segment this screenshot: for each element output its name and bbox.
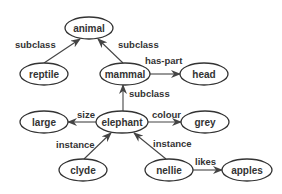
edge-label-colour: colour bbox=[152, 109, 181, 120]
node-head-label: head bbox=[192, 69, 215, 80]
node-head: head bbox=[180, 63, 228, 85]
edge-label-instance: instance bbox=[56, 139, 95, 150]
node-animal: animal bbox=[65, 17, 113, 39]
edge-label-subclass: subclass bbox=[15, 39, 56, 50]
node-mammal: mammal bbox=[100, 63, 150, 85]
edge-label-likes: likes bbox=[195, 156, 216, 167]
node-large-label: large bbox=[32, 117, 56, 128]
node-nellie: nellie bbox=[145, 159, 193, 181]
node-grey-label: grey bbox=[194, 117, 216, 128]
edge-label-instance: instance bbox=[153, 138, 192, 149]
edge-label-subclass: subclass bbox=[118, 39, 159, 50]
node-mammal-label: mammal bbox=[105, 69, 146, 80]
node-apples-label: apples bbox=[231, 165, 263, 176]
node-nellie-label: nellie bbox=[156, 165, 182, 176]
edges-layer bbox=[44, 39, 222, 170]
node-animal-label: animal bbox=[73, 23, 105, 34]
node-clyde-label: clyde bbox=[70, 165, 96, 176]
edge-label-size: size bbox=[77, 109, 95, 120]
node-reptile-label: reptile bbox=[29, 69, 59, 80]
edge-label-has-part: has-part bbox=[145, 55, 183, 66]
edge-label-subclass: subclass bbox=[129, 88, 170, 99]
semantic-network-diagram: animalreptilemammalheadlargeelephantgrey… bbox=[0, 0, 282, 194]
node-clyde: clyde bbox=[59, 159, 107, 181]
node-grey: grey bbox=[181, 111, 229, 133]
node-reptile: reptile bbox=[20, 63, 68, 85]
edge-labels-layer: subclasssubclasshas-partsubclasssizecolo… bbox=[15, 39, 216, 167]
node-apples: apples bbox=[222, 159, 272, 181]
node-elephant-label: elephant bbox=[101, 117, 143, 128]
node-elephant: elephant bbox=[96, 111, 148, 133]
node-large: large bbox=[20, 111, 68, 133]
